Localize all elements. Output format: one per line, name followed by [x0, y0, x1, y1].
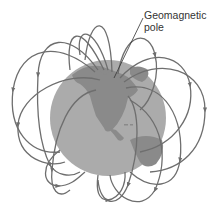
earth-globe — [50, 60, 166, 176]
geomagnetic-pole-label: Geomagnetic pole — [144, 9, 206, 33]
label-line-2: pole — [144, 21, 206, 33]
label-line-1: Geomagnetic — [144, 9, 206, 21]
